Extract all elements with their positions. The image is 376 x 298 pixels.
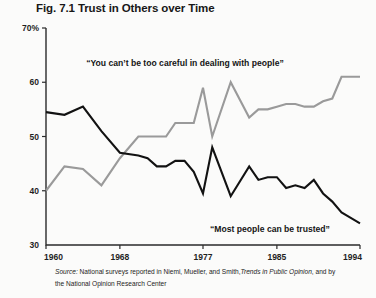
series-line [46,107,360,224]
source-line-2: the National Opinion Research Center [55,280,166,287]
series-annotations: “You can’t be too careful in dealing wit… [86,58,330,234]
source-work-title: Trends in Public Opinion [240,268,311,275]
series-lines [46,77,360,223]
series-line [46,77,360,191]
y-tick-label: 40 [30,186,40,196]
source-note: Source: National surveys reported in Nie… [55,266,367,290]
y-tick-label: 60 [30,77,40,87]
source-text-b: , and by [312,268,335,275]
source-label: Source: [55,268,78,275]
x-tick-label: 1994 [343,252,362,262]
source-text-a: National surveys reported in Niemi, Muel… [80,268,241,275]
figure-trust-in-others: Fig. 7.1 Trust in Others over Time 70%60… [0,0,376,298]
x-tick-label: 1960 [44,252,63,262]
series-annotation: “You can’t be too careful in dealing wit… [86,58,284,68]
series-annotation: “Most people can be trusted” [210,224,330,234]
y-tick-label: 70% [22,23,39,33]
x-axis-ticks: 19601968197719851994 [44,245,362,262]
y-tick-label: 50 [30,132,40,142]
x-tick-label: 1985 [267,252,286,262]
x-tick-label: 1977 [194,252,213,262]
trust-line-chart: 70%60504030 19601968197719851994 “You ca… [0,0,376,298]
x-tick-label: 1968 [110,252,129,262]
y-tick-label: 30 [30,240,40,250]
y-axis-ticks: 70%60504030 [22,23,46,250]
